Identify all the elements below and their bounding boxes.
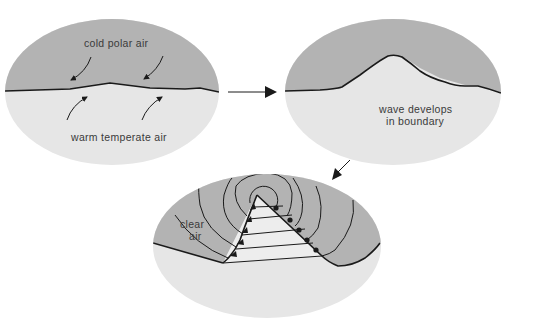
label-air: air (189, 230, 202, 242)
label-warm-temperate-air: warm temperate air (71, 131, 167, 143)
frontal-wave-diagram (0, 0, 552, 331)
label-wave-develops: wave develops (379, 103, 452, 115)
label-in-boundary: in boundary (386, 115, 444, 127)
arrow-down-left-icon (332, 160, 350, 180)
stage-1-panel (0, 0, 230, 180)
stage-3-panel (150, 170, 390, 330)
stage-2-panel (280, 0, 510, 180)
arrow-right-icon (228, 86, 277, 98)
label-cold-polar-air: cold polar air (84, 37, 148, 49)
label-clear: clear (180, 218, 204, 230)
